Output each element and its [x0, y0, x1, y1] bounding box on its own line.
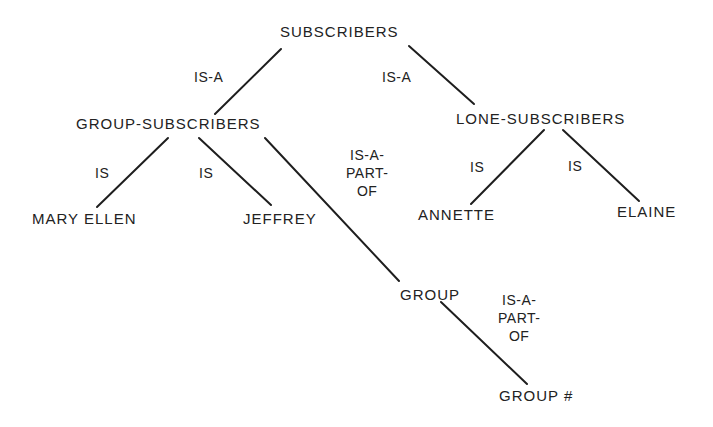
- label-is-mary-ellen: IS: [95, 164, 109, 182]
- node-group-subscribers: GROUP-SUBSCRIBERS: [76, 116, 261, 132]
- label-line-3: OF: [346, 182, 388, 200]
- label-is-elaine: IS: [568, 157, 582, 175]
- edge-subscribers-group-subscribers: [215, 49, 281, 114]
- label-is-a-part-of-group: IS-A- PART- OF: [346, 146, 388, 200]
- label-line-2: PART-: [346, 164, 388, 182]
- node-mary-ellen: MARY ELLEN: [32, 211, 137, 227]
- diagram-canvas: SUBSCRIBERS GROUP-SUBSCRIBERS LONE-SUBSC…: [0, 0, 713, 427]
- label-line-2: PART-: [498, 309, 540, 327]
- node-annette: ANNETTE: [418, 207, 495, 223]
- label-is-annette: IS: [470, 158, 484, 176]
- label-is-a-group: IS-A: [194, 68, 223, 86]
- node-elaine: ELAINE: [617, 204, 676, 220]
- label-line-1: IS-A-: [346, 146, 388, 164]
- label-line-1: IS-A-: [498, 291, 540, 309]
- label-is-a-lone: IS-A: [382, 68, 411, 86]
- node-subscribers: SUBSCRIBERS: [280, 24, 399, 40]
- node-group: GROUP: [400, 287, 460, 303]
- node-jeffrey: JEFFREY: [243, 211, 317, 227]
- label-is-jeffrey: IS: [199, 164, 213, 182]
- node-lone-subscribers: LONE-SUBSCRIBERS: [456, 111, 625, 127]
- node-group-number: GROUP #: [499, 388, 573, 404]
- label-is-a-part-of-group-number: IS-A- PART- OF: [498, 291, 540, 345]
- edge-subscribers-lone-subscribers: [409, 46, 474, 104]
- label-line-3: OF: [498, 327, 540, 345]
